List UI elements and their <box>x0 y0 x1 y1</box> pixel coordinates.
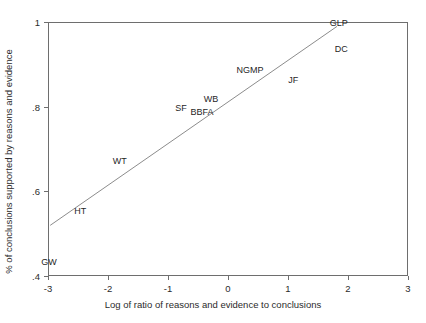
data-point-label: GW <box>41 257 57 267</box>
data-point-label: DC <box>335 44 348 54</box>
x-tick-label: 3 <box>405 283 410 294</box>
y-tick-label: .6 <box>18 186 40 197</box>
data-point-label: JF <box>288 75 298 85</box>
data-point-label: GLP <box>330 18 348 28</box>
y-axis-title: % of conclusions supported by reasons an… <box>0 0 18 323</box>
regression-line <box>49 23 409 277</box>
plot-area: GWHTWTSFBBFAWBNGMPJFDCGLP <box>48 22 408 276</box>
scatter-plot-figure: % of conclusions supported by reasons an… <box>0 0 426 323</box>
data-point-label: WT <box>113 156 127 166</box>
x-axis-title: Log of ratio of reasons and evidence to … <box>0 299 426 310</box>
x-tick-label: -2 <box>104 283 112 294</box>
y-tick-label: .4 <box>18 271 40 282</box>
y-tick-label: 1 <box>18 17 40 28</box>
x-tick-label: -3 <box>44 283 52 294</box>
data-point-label: SF <box>175 103 187 113</box>
data-point-label: BBFA <box>190 107 213 117</box>
x-tick-label: -1 <box>164 283 172 294</box>
x-tick-label: 0 <box>225 283 230 294</box>
data-point-label: HT <box>74 206 86 216</box>
regression-line-segment <box>50 26 337 225</box>
x-tick-label: 2 <box>345 283 350 294</box>
data-point-label: WB <box>204 94 219 104</box>
x-tick-label: 1 <box>285 283 290 294</box>
y-tick-label: .8 <box>18 101 40 112</box>
data-point-label: NGMP <box>237 65 264 75</box>
